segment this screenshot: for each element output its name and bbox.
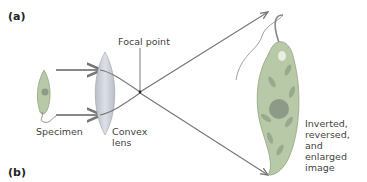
image-label: Inverted, reversed, and enlarged image [305, 118, 367, 173]
convex-lens-label: Convex lens [112, 126, 147, 148]
focal-point-label: Focal point [118, 36, 170, 47]
image-label-line4: image [305, 162, 367, 173]
focal-point-dot [139, 91, 142, 94]
convex-lens-label-line1: Convex [112, 126, 147, 137]
convex-lens [95, 52, 115, 135]
image-label-line2: reversed, and [305, 129, 367, 151]
specimen-label: Specimen [36, 126, 83, 137]
convex-lens-label-line2: lens [112, 137, 147, 148]
image-label-line1: Inverted, [305, 118, 367, 129]
specimen-organism [37, 70, 56, 122]
image-label-line3: enlarged [305, 151, 367, 162]
enlarged-image-organism [236, 15, 299, 175]
